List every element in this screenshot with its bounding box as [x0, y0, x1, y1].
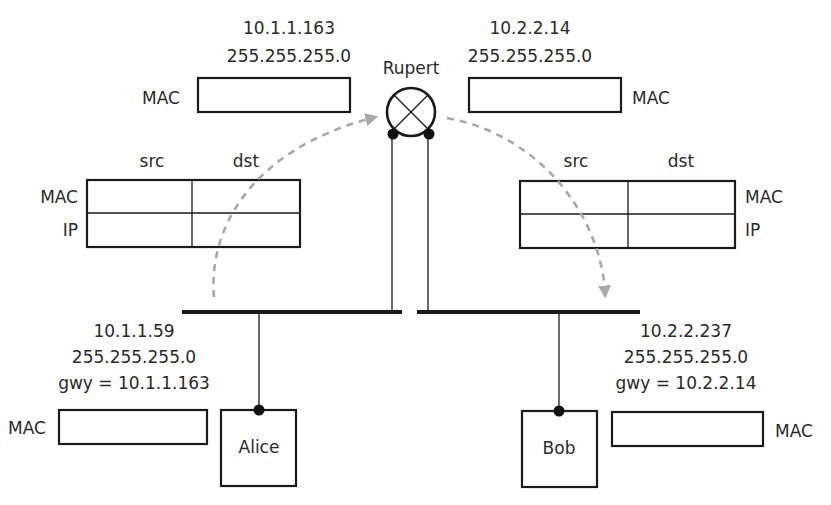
router-left-ip: 10.1.1.163 [243, 18, 335, 38]
bob-mask: 255.255.255.0 [624, 347, 748, 367]
router-left-port-dot [388, 129, 399, 140]
bob-mac-box [612, 412, 763, 446]
row-header-ip: IP [63, 220, 78, 240]
router-right-interface: 10.2.2.14 255.255.255.0 MAC [468, 18, 670, 112]
alice-mask: 255.255.255.0 [72, 347, 196, 367]
router-left-interface: 10.1.1.163 255.255.255.0 MAC [142, 18, 351, 112]
router-right-port-dot [424, 129, 435, 140]
frame-table-right: src dst MAC IP [520, 151, 783, 248]
alice-ip: 10.1.1.59 [93, 321, 174, 341]
col-header-src: src [140, 151, 165, 171]
frame-table-left: src dst MAC IP [40, 151, 300, 247]
col-header-src: src [564, 151, 589, 171]
alice-mac-box [59, 410, 207, 444]
alice-mac-label: MAC [8, 418, 46, 438]
router-left-mac-box [198, 78, 350, 112]
router-right-mac-label: MAC [632, 88, 670, 108]
bob-mac-label: MAC [775, 421, 813, 441]
alice-gateway: gwy = 10.1.1.163 [58, 373, 210, 393]
router-right-mask: 255.255.255.0 [468, 46, 592, 66]
router-name: Rupert [383, 58, 440, 78]
network-diagram: Rupert 10.1.1.163 255.255.255.0 MAC 10.2… [0, 0, 831, 505]
bob-gateway: gwy = 10.2.2.14 [616, 373, 757, 393]
router-rupert: Rupert [383, 58, 440, 312]
router-left-mask: 255.255.255.0 [227, 46, 351, 66]
row-header-mac: MAC [40, 187, 78, 207]
router-right-ip: 10.2.2.14 [489, 18, 570, 38]
alice-port-dot [254, 405, 265, 416]
bob-ip: 10.2.2.237 [640, 321, 732, 341]
col-header-dst: dst [233, 151, 260, 171]
router-left-mac-label: MAC [142, 88, 180, 108]
host-alice: 10.1.1.59 255.255.255.0 gwy = 10.1.1.163… [8, 312, 296, 486]
router-right-mac-box [469, 78, 621, 112]
alice-name: Alice [239, 437, 280, 457]
bob-name: Bob [543, 438, 576, 458]
col-header-dst: dst [668, 151, 695, 171]
bob-port-dot [554, 406, 565, 417]
row-header-mac: MAC [745, 187, 783, 207]
host-bob: 10.2.2.237 255.255.255.0 gwy = 10.2.2.14… [522, 312, 813, 487]
row-header-ip: IP [745, 220, 760, 240]
